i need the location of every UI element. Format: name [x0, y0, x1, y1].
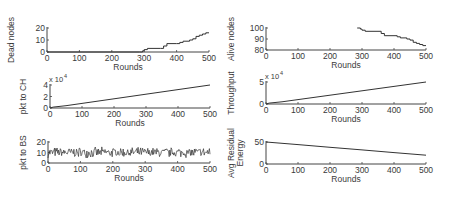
y-axis-label: pkt to CH	[18, 79, 28, 114]
data-line-alive	[357, 28, 426, 46]
y-tick-label: 80	[255, 45, 265, 55]
y-tick-label: 20	[37, 137, 47, 147]
y-axis-label: Dead nodes	[6, 17, 16, 63]
svg-text:4: 4	[280, 70, 283, 76]
x-tick-label: 0	[264, 51, 269, 61]
y-tick-label: 0	[41, 158, 46, 168]
x-tick-label: 0	[264, 165, 269, 175]
axis-exponent: x 10	[265, 72, 279, 81]
x-tick-label: 500	[419, 105, 433, 115]
data-line-dead	[47, 33, 209, 52]
data-line-energy	[266, 142, 426, 155]
x-tick-label: 100	[291, 51, 305, 61]
x-tick-label: 100	[291, 165, 305, 175]
x-tick-label: 400	[170, 53, 184, 63]
x-tick-label: 400	[171, 109, 185, 119]
x-tick-label: 400	[387, 51, 401, 61]
y-tick-label: 20	[36, 23, 46, 33]
x-tick-label: 0	[46, 164, 51, 174]
x-axis-label: Rounds	[114, 173, 143, 183]
y-tick-label: 10	[36, 35, 46, 45]
y-tick-label: 2	[43, 92, 48, 102]
x-tick-label: 100	[72, 53, 86, 63]
data-line-throughput	[266, 82, 426, 104]
x-tick-label: 0	[264, 105, 269, 115]
x-tick-label: 400	[171, 164, 185, 174]
y-tick-label: 90	[255, 34, 265, 44]
subplot-energy: 0100200300400500050RoundsAvg ResidualEne…	[226, 128, 433, 184]
x-axis-label: Rounds	[113, 62, 142, 72]
x-axis-label: Rounds	[331, 114, 360, 124]
y-axis-label: pkt to BS	[18, 135, 28, 170]
subplot-dead: 010020030040050001020RoundsDead nodes	[6, 17, 216, 72]
x-axis-label: Rounds	[331, 174, 360, 184]
y-tick-label: 0	[259, 159, 264, 169]
y-axis-label: Energy	[235, 139, 245, 167]
x-tick-label: 400	[387, 105, 401, 115]
x-tick-label: 0	[45, 53, 50, 63]
axis-exponent: x 10	[49, 75, 63, 84]
x-tick-label: 500	[419, 165, 433, 175]
x-tick-label: 500	[203, 109, 217, 119]
data-line-pkt_ch	[50, 85, 210, 108]
svg-text:4: 4	[64, 73, 67, 79]
subplot-pkt_bs: 010020030040050001020Roundspkt to BS	[18, 135, 217, 183]
x-axis-label: Rounds	[331, 60, 360, 70]
x-tick-label: 500	[202, 53, 216, 63]
figure-canvas: 010020030040050001020RoundsDead nodes010…	[0, 0, 452, 200]
x-tick-label: 500	[419, 51, 433, 61]
subplot-throughput: 010020030040050005x 104RoundsThroughput	[226, 70, 433, 124]
y-axis-label: Throughput	[226, 71, 236, 115]
y-tick-label: 50	[255, 137, 265, 147]
y-tick-label: 4	[43, 80, 48, 90]
x-tick-label: 0	[48, 109, 53, 119]
y-tick-label: 100	[250, 23, 264, 33]
x-tick-label: 100	[75, 109, 89, 119]
y-tick-label: 10	[37, 148, 47, 158]
subplot-alive: 01002003004005008090100RoundsAlive nodes	[226, 17, 433, 70]
y-axis-label: Alive nodes	[226, 17, 236, 61]
subplot-pkt_ch: 0100200300400500024x 104Roundspkt to CH	[18, 73, 217, 128]
x-axis-label: Rounds	[115, 118, 144, 128]
y-tick-label: 5	[259, 77, 264, 87]
x-tick-label: 100	[73, 164, 87, 174]
data-line-pkt_bs	[48, 147, 210, 158]
y-tick-label: 0	[259, 99, 264, 109]
x-tick-label: 500	[203, 164, 217, 174]
y-tick-label: 0	[43, 103, 48, 113]
x-tick-label: 100	[291, 105, 305, 115]
x-tick-label: 400	[387, 165, 401, 175]
y-tick-label: 0	[40, 47, 45, 57]
